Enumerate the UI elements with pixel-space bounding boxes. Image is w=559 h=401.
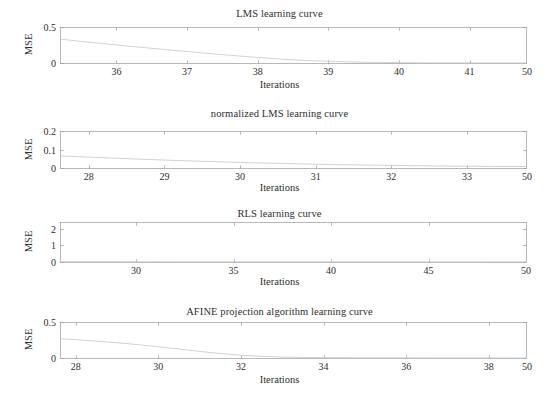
x-tick-label: 30: [235, 171, 245, 182]
x-axis-label: Iterations: [0, 374, 559, 386]
data-series-line: [60, 39, 526, 63]
x-tick-label: 28: [71, 361, 81, 372]
x-tick-label: 45: [424, 265, 434, 276]
x-axis-label: Iterations: [0, 182, 559, 194]
learning-curves-figure: LMS learning curve MSE Iterations 363738…: [0, 0, 559, 401]
x-tick-label: 38: [484, 361, 494, 372]
x-tick-label: 30: [153, 361, 163, 372]
chart-panel-lms: LMS learning curve MSE Iterations 363738…: [0, 0, 559, 100]
x-axis-end-label: 50: [522, 361, 532, 372]
x-tick-label: 38: [253, 66, 263, 77]
x-axis-label: Iterations: [0, 79, 559, 91]
x-axis-label: Iterations: [0, 276, 559, 288]
y-tick-label: 0.5: [0, 317, 56, 328]
chart-title: AFINE projection algorithm learning curv…: [0, 306, 559, 318]
chart-title: LMS learning curve: [0, 8, 559, 20]
x-tick-label: 31: [311, 171, 321, 182]
x-tick-label: 30: [131, 265, 141, 276]
x-tick-label: 35: [229, 265, 239, 276]
x-axis-end-label: 50: [522, 66, 532, 77]
x-tick-label: 40: [394, 66, 404, 77]
y-tick-label: 0.5: [0, 22, 56, 33]
x-tick-label: 41: [465, 66, 475, 77]
x-tick-label: 32: [236, 361, 246, 372]
axes-frame: [61, 28, 527, 64]
axes-frame: [61, 323, 527, 359]
data-series-line: [60, 156, 526, 167]
y-tick-label: 0: [0, 257, 56, 268]
axes-frame: [61, 223, 527, 263]
chart-panel-normalized-lms: normalized LMS learning curve MSE Iterat…: [0, 100, 559, 200]
y-tick-label: 0: [0, 353, 56, 364]
chart-panel-rls: RLS learning curve MSE Iterations 303540…: [0, 200, 559, 300]
y-tick-label: 2: [0, 223, 56, 234]
chart-panel-affine-projection: AFINE projection algorithm learning curv…: [0, 300, 559, 401]
x-tick-label: 36: [401, 361, 411, 372]
x-axis-end-label: 50: [522, 171, 532, 182]
x-tick-label: 40: [326, 265, 336, 276]
axes-frame: [61, 132, 527, 169]
data-series-line: [60, 339, 526, 358]
x-tick-label: 50: [521, 265, 531, 276]
x-tick-label: 37: [182, 66, 192, 77]
y-tick-label: 0.2: [0, 126, 56, 137]
x-tick-label: 28: [84, 171, 94, 182]
chart-title: normalized LMS learning curve: [0, 108, 559, 120]
y-tick-label: 0: [0, 58, 56, 69]
y-tick-label: 0.1: [0, 144, 56, 155]
x-tick-label: 39: [323, 66, 333, 77]
y-tick-label: 1: [0, 240, 56, 251]
x-tick-label: 33: [462, 171, 472, 182]
y-tick-label: 0: [0, 163, 56, 174]
x-tick-label: 29: [159, 171, 169, 182]
chart-title: RLS learning curve: [0, 208, 559, 220]
x-tick-label: 32: [386, 171, 396, 182]
x-tick-label: 34: [319, 361, 329, 372]
x-tick-label: 36: [112, 66, 122, 77]
